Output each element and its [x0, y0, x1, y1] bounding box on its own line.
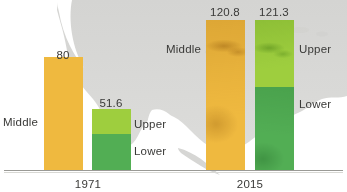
x-axis-label-2015: 2015	[190, 178, 310, 190]
x-axis-shadow	[4, 172, 343, 173]
x-axis-line	[4, 170, 343, 171]
2015-lower-map-overlay	[255, 87, 294, 170]
1971-upper-segment	[92, 109, 131, 134]
2015-middle-segment	[206, 20, 245, 170]
2015-upper-segment	[255, 20, 294, 87]
1971-stacked-value-label: 51.6	[76, 97, 146, 109]
1971-middle-annotation: Middle	[3, 116, 38, 128]
1971-middle-bar	[44, 57, 83, 170]
2015-lower-segment	[255, 87, 294, 170]
1971-middle-value-label: 80	[28, 49, 98, 61]
1971-upper-annotation: Upper	[134, 118, 166, 130]
chart-container: 80 Middle 51.6 Upper Lower 120.8 Middle …	[0, 0, 347, 192]
2015-upper-map-overlay	[255, 20, 294, 87]
2015-upper-annotation: Upper	[299, 43, 331, 55]
2015-lower-annotation: Lower	[299, 98, 331, 110]
1971-stacked-bar	[92, 109, 131, 170]
x-axis-label-1971: 1971	[28, 178, 148, 190]
2015-stacked-bar	[255, 20, 294, 170]
plot-area: 80 Middle 51.6 Upper Lower 120.8 Middle …	[0, 0, 347, 192]
1971-lower-annotation: Lower	[134, 145, 166, 157]
2015-middle-annotation: Middle	[166, 43, 201, 55]
1971-lower-segment	[92, 134, 131, 170]
2015-middle-bar	[206, 20, 245, 170]
2015-stacked-value-label: 121.3	[239, 6, 309, 18]
1971-middle-segment	[44, 57, 83, 170]
